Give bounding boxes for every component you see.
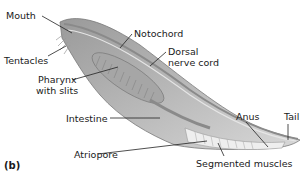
label-notochord: Notochord: [134, 28, 183, 39]
label-dorsal-1: Dorsal: [168, 46, 198, 57]
label-segmented-muscles: Segmented muscles: [196, 158, 293, 169]
panel-label: (b): [4, 160, 20, 171]
label-pharynx-2: with slits: [36, 85, 78, 96]
label-pharynx-1: Pharynx: [38, 74, 77, 85]
label-mouth: Mouth: [6, 10, 36, 21]
label-intestine: Intestine: [66, 113, 108, 124]
label-dorsal-2: nerve cord: [168, 57, 219, 68]
label-anus: Anus: [236, 111, 260, 122]
label-tentacles: Tentacles: [4, 55, 48, 66]
label-atriopore: Atriopore: [74, 149, 118, 160]
label-tail: Tail: [284, 111, 299, 122]
